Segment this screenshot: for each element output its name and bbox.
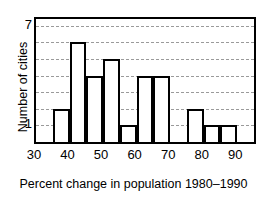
x-tick-label-80: 80 xyxy=(187,148,217,161)
x-tick-label-40: 40 xyxy=(53,148,83,161)
bar-60–65 xyxy=(137,76,154,142)
x-tick-label-90: 90 xyxy=(220,148,250,161)
y-axis-tick-labels: 17 xyxy=(0,0,32,202)
bar-80–85 xyxy=(204,125,221,142)
y-tick-label-7: 7 xyxy=(14,17,32,30)
bar-45–50 xyxy=(86,76,103,142)
x-tick-label-30: 30 xyxy=(19,148,49,161)
x-tick-label-60: 60 xyxy=(120,148,150,161)
bar-85–90 xyxy=(220,125,237,142)
plot-inner xyxy=(36,19,254,142)
gridline-y-7 xyxy=(36,26,254,27)
x-axis-title: Percent change in population 1980–1990 xyxy=(0,177,267,191)
bar-40–45 xyxy=(70,42,87,142)
x-tick-label-50: 50 xyxy=(86,148,116,161)
bar-55–60 xyxy=(120,125,137,142)
bar-35–40 xyxy=(53,109,70,142)
y-tick-label-1: 1 xyxy=(14,117,32,130)
bar-65–70 xyxy=(153,76,170,142)
histogram-figure: Number of cities 17 30405060708090 Perce… xyxy=(0,0,267,202)
bar-75–80 xyxy=(187,109,204,142)
bar-50–55 xyxy=(103,59,120,142)
x-axis-tick-labels: 30405060708090 xyxy=(34,148,256,166)
x-tick-label-70: 70 xyxy=(153,148,183,161)
plot-area xyxy=(34,17,256,144)
